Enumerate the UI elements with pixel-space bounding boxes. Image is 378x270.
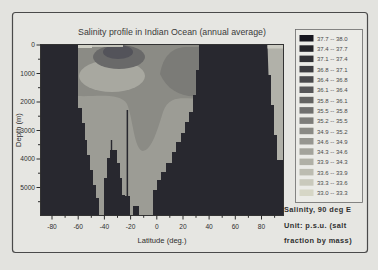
legend-row: 36.4 -- 36.8 bbox=[300, 76, 349, 83]
legend-caption-line1: Salinity, 90 deg E bbox=[284, 205, 351, 214]
legend-label: 35.8 -- 36.1 bbox=[317, 98, 348, 104]
legend-label: 34.6 -- 34.9 bbox=[317, 139, 348, 145]
legend-swatch bbox=[300, 87, 314, 94]
x-tick-label: -80 bbox=[47, 223, 57, 230]
legend-swatch bbox=[300, 107, 314, 114]
legend-row: 37.7 -- 38.0 bbox=[300, 35, 349, 42]
legend-swatch bbox=[300, 159, 314, 166]
legend-swatch bbox=[300, 66, 314, 73]
legend-row: 36.1 -- 36.4 bbox=[300, 87, 349, 94]
legend-row: 33.6 -- 33.9 bbox=[300, 169, 349, 176]
y-tick-label: 0 bbox=[31, 41, 35, 48]
legend-row: 33.3 -- 33.6 bbox=[300, 179, 349, 186]
legend-label: 35.5 -- 35.8 bbox=[317, 108, 348, 114]
legend-label: 34.9 -- 35.2 bbox=[317, 129, 348, 135]
legend-label: 36.8 -- 37.1 bbox=[317, 67, 348, 73]
legend-label: 37.7 -- 38.0 bbox=[317, 36, 348, 42]
salinity-chart: Salinity profile in Indian Ocean (annual… bbox=[0, 0, 378, 270]
ridge-spike-base-mound bbox=[124, 196, 130, 216]
surface-salinity-maximum-core bbox=[103, 45, 133, 59]
y-axis-title: Depth (m) bbox=[14, 113, 23, 147]
y-tick-label: 2000 bbox=[20, 98, 35, 105]
legend-swatch bbox=[300, 138, 314, 145]
legend-caption-line3: fraction by mass) bbox=[284, 236, 352, 245]
x-tick-label: -20 bbox=[126, 223, 136, 230]
x-tick-label: 0 bbox=[155, 223, 159, 230]
x-tick-label: -40 bbox=[100, 223, 110, 230]
surface-fresh-strip-bright bbox=[78, 45, 92, 48]
legend-swatch bbox=[300, 128, 314, 135]
legend-label: 34.3 -- 34.6 bbox=[317, 149, 348, 155]
legend-swatch bbox=[300, 190, 314, 197]
legend-swatch bbox=[300, 76, 314, 83]
legend-label: 37.1 -- 37.4 bbox=[317, 56, 348, 62]
x-tick-label: 20 bbox=[179, 223, 187, 230]
seafloor-ridge-a-spike bbox=[111, 140, 112, 152]
x-axis-title: Latitude (deg.) bbox=[138, 236, 187, 245]
y-tick-label: 1000 bbox=[20, 70, 35, 77]
legend-row: 33.0 -- 33.3 bbox=[300, 190, 349, 197]
x-axis-tick-labels: -80 -60 -40 -20 0 20 40 60 80 bbox=[47, 223, 265, 230]
seafloor-mound bbox=[133, 206, 139, 216]
legend-row: 36.8 -- 37.1 bbox=[300, 66, 349, 73]
legend-row: 34.3 -- 34.6 bbox=[300, 148, 349, 155]
legend-label: 35.2 -- 35.5 bbox=[317, 118, 348, 124]
legend-caption-line2: Unit: p.s.u. (salt bbox=[284, 221, 347, 230]
legend-swatch bbox=[300, 169, 314, 176]
x-tick-label: 80 bbox=[258, 223, 266, 230]
legend-label: 33.9 -- 34.3 bbox=[317, 159, 348, 165]
legend-row: 37.4 -- 37.7 bbox=[300, 45, 349, 52]
legend-row: 35.8 -- 36.1 bbox=[300, 97, 349, 104]
legend-swatch bbox=[300, 45, 314, 52]
legend-label: 33.6 -- 33.9 bbox=[317, 170, 348, 176]
legend-label: 33.3 -- 33.6 bbox=[317, 180, 348, 186]
legend-label: 37.4 -- 37.7 bbox=[317, 46, 348, 52]
figure-page: Salinity profile in Indian Ocean (annual… bbox=[0, 0, 378, 270]
ninety-east-ridge-spike bbox=[127, 110, 129, 200]
legend-row: 33.9 -- 34.3 bbox=[300, 159, 349, 166]
legend-row: 35.5 -- 35.8 bbox=[300, 107, 349, 114]
legend-swatch bbox=[300, 148, 314, 155]
legend-swatch bbox=[300, 179, 314, 186]
legend-row: 34.9 -- 35.2 bbox=[300, 128, 349, 135]
legend-swatch bbox=[300, 97, 314, 104]
legend-label: 36.1 -- 36.4 bbox=[317, 87, 348, 93]
legend-row: 37.1 -- 37.4 bbox=[300, 56, 349, 63]
legend-label: 33.0 -- 33.3 bbox=[317, 190, 348, 196]
legend-row: 35.2 -- 35.5 bbox=[300, 117, 349, 124]
arctic-surface-fresh-cap bbox=[268, 45, 284, 49]
legend-swatch bbox=[300, 56, 314, 63]
chart-title: Salinity profile in Indian Ocean (annual… bbox=[78, 27, 266, 37]
legend-swatch bbox=[300, 117, 314, 124]
y-tick-label: 5000 bbox=[20, 184, 35, 191]
legend-row: 34.6 -- 34.9 bbox=[300, 138, 349, 145]
x-tick-label: 40 bbox=[205, 223, 213, 230]
y-tick-label: 4000 bbox=[20, 155, 35, 162]
legend-label: 36.4 -- 36.8 bbox=[317, 77, 348, 83]
x-tick-label: 60 bbox=[232, 223, 240, 230]
x-tick-label: -60 bbox=[73, 223, 83, 230]
legend-swatch bbox=[300, 35, 314, 42]
